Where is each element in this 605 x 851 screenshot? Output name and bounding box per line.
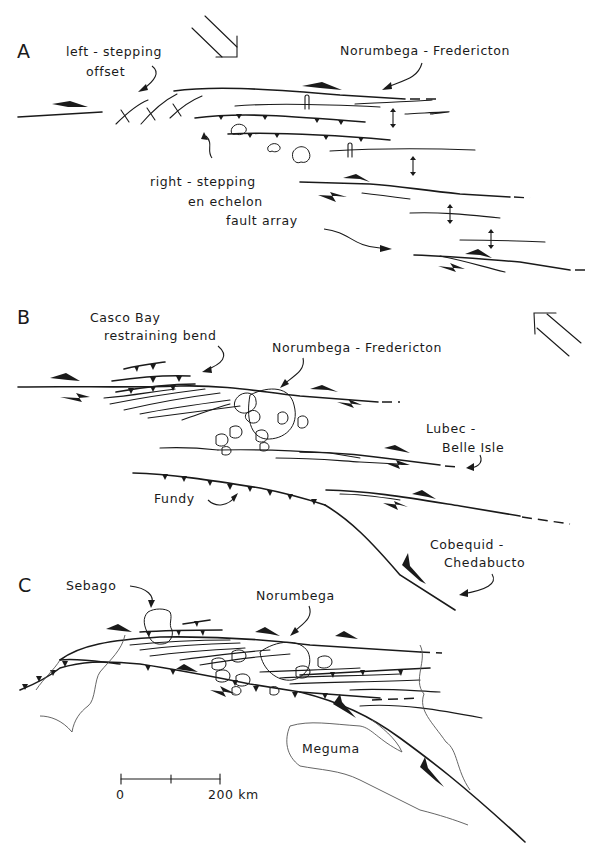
thrust-fault-southwest (20, 662, 380, 698)
leader-fault-array (324, 229, 380, 248)
fault-norumbega-a (174, 88, 405, 99)
label-lubec: Lubec - (426, 421, 476, 436)
label-norumbega-fredericton-a: Norumbega - Fredericton (340, 43, 510, 58)
panel-a: A left - stepping offset Norumbega - Fre… (17, 16, 590, 272)
panel-letter-b: B (17, 306, 30, 328)
fault-dashed (445, 466, 460, 467)
fault-system-figure: A left - stepping offset Norumbega - Fre… (0, 0, 605, 851)
label-fundy: Fundy (154, 491, 195, 506)
compression-arrow-nw-icon (534, 313, 581, 356)
dextral-arrow-icon (52, 101, 88, 107)
leader-arrowhead-icon (280, 379, 289, 388)
fault-dashed (522, 517, 570, 524)
scale-bar: 0 200 km (116, 774, 259, 802)
fault-trace (160, 448, 218, 450)
dextral-arrow-icon (106, 624, 132, 632)
panel-letter-a: A (17, 40, 30, 62)
scale-bar-start-label: 0 (116, 787, 125, 802)
fault-dashed (514, 197, 530, 198)
leader-casco-bay (206, 346, 224, 370)
dextral-arrow-icon (343, 174, 370, 182)
scale-bar-end-label: 200 km (208, 787, 259, 802)
leader-arrowhead-icon (466, 463, 474, 471)
dextral-arrow-icon (310, 385, 338, 392)
leader-arrowhead-icon (380, 245, 392, 252)
leader-arrowhead-icon (148, 600, 155, 608)
leader-arrowhead-icon (382, 82, 392, 90)
sinistral-arrow-icon (318, 192, 347, 202)
label-meguma: Meguma (302, 741, 360, 756)
panel-c: C Sebago Norumbega (18, 574, 525, 842)
fold-axes-group (116, 94, 202, 124)
label-right-stepping: right - stepping (150, 174, 256, 189)
fabric-c (130, 640, 440, 692)
fault-cobequid-chedabucto (325, 505, 455, 610)
leader-norumbega-c (294, 606, 310, 632)
fault-trace (276, 458, 398, 464)
fault-trace (300, 182, 510, 197)
leader-arrowhead-icon (202, 366, 212, 373)
label-offset: offset (86, 64, 125, 79)
meguma-outline (287, 720, 468, 825)
sinistral-arrow-icon (333, 694, 356, 718)
label-cobequid: Cobequid - (430, 537, 504, 552)
fold-symbols (305, 95, 494, 249)
label-belle-isle: Belle Isle (442, 440, 504, 455)
dextral-arrow-icon (412, 490, 436, 499)
thrust-fault (228, 133, 390, 140)
compression-arrow-se-icon (192, 16, 237, 57)
label-chedabucto: Chedabucto (444, 555, 525, 570)
thrust-fault (140, 630, 222, 632)
panel-b: B Casco Bay restraining bend Norumbega -… (17, 306, 581, 610)
leader-arrowhead-icon (459, 589, 468, 597)
leader-norumbega-b (284, 358, 303, 384)
label-fault-array: fault array (226, 213, 298, 228)
fault-trace (410, 213, 500, 218)
coastline (36, 635, 470, 790)
dextral-arrow-icon (384, 445, 410, 453)
thrust-fault (300, 668, 430, 675)
label-casco-bay: Casco Bay (90, 310, 160, 325)
label-sebago: Sebago (66, 578, 116, 593)
dextral-arrow-icon (255, 627, 280, 636)
fault-trace (414, 255, 570, 270)
label-left-stepping: left - stepping (66, 44, 162, 59)
label-norumbega-c: Norumbega (256, 588, 335, 603)
dextral-arrow-icon (50, 373, 80, 381)
leader-arrowhead-icon (201, 132, 208, 140)
fault-trace (360, 705, 482, 718)
dextral-arrow-icon (335, 631, 358, 639)
thrust-fault (124, 362, 165, 369)
thrust-teeth-icon (146, 621, 205, 637)
label-restraining-bend: restraining bend (104, 328, 217, 343)
pluton-sebago (144, 609, 172, 644)
sinistral-arrow-icon (60, 393, 90, 402)
sinistral-arrow-icon (383, 501, 408, 510)
bend-fabric (104, 389, 240, 420)
label-norumbega-fredericton-b: Norumbega - Fredericton (272, 340, 442, 355)
fault-trace (235, 104, 380, 107)
leader-arrowhead-icon (138, 84, 148, 92)
dextral-arrow-icon (302, 82, 342, 90)
fault-trace (405, 112, 449, 114)
fault-trace (460, 240, 545, 242)
dextral-arrow-icon (465, 249, 492, 258)
label-en-echelon: en echelon (188, 194, 263, 209)
fault-dashed (420, 652, 442, 653)
pluton-outline (292, 147, 309, 163)
plutons-c (212, 642, 332, 695)
sinistral-arrow-icon (438, 263, 465, 272)
pluton-outline (268, 144, 280, 152)
fault-trace (355, 100, 432, 104)
fault-trace (18, 112, 102, 117)
plutons-b (216, 389, 308, 455)
fault-trace (362, 193, 410, 199)
panel-letter-c: C (18, 574, 31, 596)
fault-cobequid-chedabucto-c (300, 692, 525, 842)
figure-canvas: A left - stepping offset Norumbega - Fre… (0, 0, 605, 851)
thrust-teeth-icon (22, 661, 328, 699)
